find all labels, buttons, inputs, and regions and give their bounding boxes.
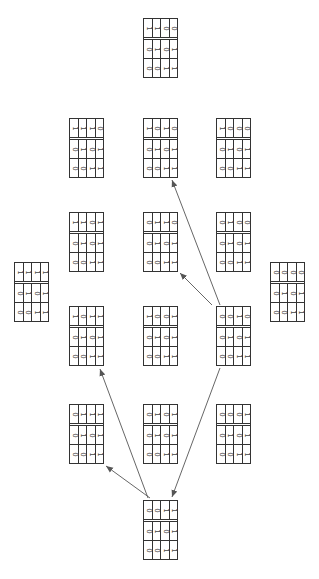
matrix-row: 0011: [70, 347, 103, 365]
cell-value: 0: [226, 126, 233, 130]
cell-value: 1: [79, 220, 86, 224]
matrix-row: 0011: [217, 445, 250, 463]
cell-value: 0: [144, 412, 151, 416]
matrix-cell: 0: [87, 426, 96, 444]
cell-value: 0: [297, 270, 304, 274]
cell-value: 0: [161, 314, 168, 318]
cell-value: 1: [96, 412, 103, 416]
matrix-row: 1010: [144, 119, 177, 140]
cell-value: 0: [144, 220, 151, 224]
matrix-r3-left: 110101010011: [69, 212, 104, 272]
matrix-cell: 1: [226, 426, 235, 444]
matrix-cell: 1: [234, 347, 243, 365]
matrix-cell: 1: [161, 253, 170, 271]
cell-value: 1: [234, 354, 241, 358]
cell-value: 1: [79, 147, 86, 151]
matrix-row: 0111: [70, 405, 103, 426]
cell-value: 0: [234, 220, 241, 224]
matrix-row: 0101: [217, 140, 250, 159]
matrix-cell: 1: [96, 213, 104, 231]
matrix-cell: 1: [243, 140, 251, 158]
cell-value: 1: [226, 433, 233, 437]
matrix-row: 0101: [144, 426, 177, 445]
cell-value: 1: [79, 126, 86, 130]
cell-value: 0: [70, 433, 77, 437]
matrix-cell: 1: [87, 253, 96, 271]
matrix-row: 0011: [144, 541, 177, 559]
cell-value: 1: [79, 241, 86, 245]
matrix-cell: 0: [243, 119, 251, 137]
matrix-cell: 1: [161, 541, 170, 559]
matrix-cell: 0: [144, 445, 153, 463]
cell-value: 0: [32, 291, 39, 295]
matrix-cell: 0: [32, 284, 41, 302]
matrix-cell: 0: [217, 405, 226, 423]
matrix-r5-right: 000101010011: [216, 404, 251, 464]
cell-value: 1: [243, 412, 250, 416]
matrix-cell: 0: [144, 501, 153, 519]
cell-value: 0: [271, 310, 278, 314]
arrow-r4-right-to-r2-mid: [172, 180, 220, 305]
cell-value: 1: [87, 452, 94, 456]
matrix-row: 0011: [144, 59, 177, 77]
matrix-cell: 1: [170, 501, 178, 519]
cell-value: 0: [144, 335, 151, 339]
cell-value: 1: [96, 260, 103, 264]
cell-value: 0: [161, 241, 168, 245]
cell-value: 0: [217, 314, 224, 318]
cell-value: 1: [234, 166, 241, 170]
matrix-row: 0101: [144, 140, 177, 159]
cell-value: 1: [243, 452, 250, 456]
matrix-cell: 1: [70, 213, 79, 231]
cell-value: 0: [87, 220, 94, 224]
cell-value: 1: [243, 166, 250, 170]
cell-value: 1: [217, 126, 224, 130]
cell-value: 1: [161, 66, 168, 70]
cell-value: 1: [87, 314, 94, 318]
matrix-cell: 1: [79, 405, 88, 423]
cell-value: 0: [217, 220, 224, 224]
matrix-cell: 1: [24, 263, 33, 281]
matrix-row: 0011: [217, 347, 250, 365]
matrix-cell: 1: [243, 405, 251, 423]
matrix-cell: 1: [170, 59, 178, 77]
matrix-cell: 0: [70, 426, 79, 444]
cell-value: 0: [217, 147, 224, 151]
matrix-cell: 0: [70, 405, 79, 423]
matrix-cell: 0: [161, 19, 170, 37]
cell-value: 0: [161, 529, 168, 533]
cell-value: 1: [170, 412, 177, 416]
cell-value: 0: [87, 241, 94, 245]
cell-value: 0: [153, 508, 160, 512]
matrix-cell: 1: [41, 303, 49, 321]
cell-value: 1: [153, 529, 160, 533]
matrix-cell: 1: [70, 119, 79, 137]
matrix-row: 1101: [70, 213, 103, 234]
cell-value: 1: [87, 354, 94, 358]
cell-value: 1: [170, 529, 177, 533]
matrix-row: 0011: [217, 159, 250, 177]
matrix-r5-left: 011101010011: [69, 404, 104, 464]
matrix-cell: 0: [144, 213, 153, 231]
cell-value: 1: [234, 314, 241, 318]
matrix-cell: 1: [161, 445, 170, 463]
cell-value: 1: [32, 310, 39, 314]
cell-value: 0: [170, 126, 177, 130]
cell-value: 1: [234, 452, 241, 456]
cell-value: 1: [280, 291, 287, 295]
cell-value: 1: [226, 220, 233, 224]
matrix-cell: 1: [96, 253, 104, 271]
matrix-cell: 0: [280, 263, 289, 281]
cell-value: 0: [87, 335, 94, 339]
matrix-far-right: 000001010011: [270, 262, 305, 322]
matrix-cell: 1: [87, 445, 96, 463]
matrix-cell: 0: [153, 501, 162, 519]
cell-value: 0: [87, 147, 94, 151]
matrix-cell: 0: [271, 303, 280, 321]
cell-value: 0: [15, 310, 22, 314]
matrix-row: 0001: [217, 405, 250, 426]
cell-value: 1: [297, 310, 304, 314]
matrix-cell: 1: [170, 347, 178, 365]
cell-value: 1: [170, 314, 177, 318]
cell-value: 1: [153, 47, 160, 51]
